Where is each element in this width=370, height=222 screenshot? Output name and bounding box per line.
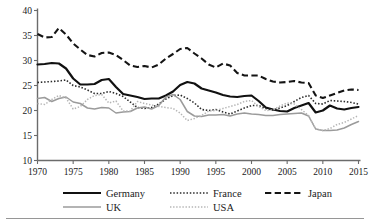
- series-line-usa: [38, 95, 359, 131]
- y-tick-label: 25: [23, 81, 33, 91]
- legend-label-uk: UK: [106, 202, 122, 213]
- x-tick-label: 1990: [171, 167, 190, 177]
- y-tick-label: 20: [23, 106, 33, 116]
- x-tick-label: 1970: [28, 167, 47, 177]
- y-tick-label: 10: [23, 156, 33, 166]
- x-tick-label: 1995: [206, 167, 225, 177]
- series-line-japan: [38, 28, 359, 98]
- y-tick-label: 35: [23, 31, 33, 41]
- series-line-uk: [38, 95, 359, 131]
- legend-label-france: France: [213, 188, 242, 199]
- y-tick-label: 30: [23, 56, 33, 66]
- x-tick-label: 1975: [64, 167, 83, 177]
- series-lines: [38, 28, 359, 131]
- legend-label-japan: Japan: [308, 188, 333, 199]
- y-tick-label: 40: [23, 6, 33, 16]
- chart-legend: GermanyFranceJapanUKUSA: [63, 188, 333, 213]
- x-tick-label: 2015: [349, 167, 368, 177]
- y-axis: 40353025201510: [23, 6, 38, 166]
- x-tick-label: 1985: [135, 167, 154, 177]
- x-tick-label: 2000: [242, 167, 261, 177]
- legend-label-usa: USA: [213, 202, 234, 213]
- line-chart: 40353025201510 1970197519801985199019952…: [0, 0, 370, 222]
- chart-container: 40353025201510 1970197519801985199019952…: [0, 0, 370, 222]
- x-tick-label: 1980: [99, 167, 118, 177]
- x-tick-label: 2005: [278, 167, 297, 177]
- y-tick-label: 15: [23, 131, 33, 141]
- x-tick-label: 2010: [313, 167, 332, 177]
- x-axis: 1970197519801985199019952000200520102015: [28, 161, 368, 177]
- legend-label-germany: Germany: [106, 188, 146, 199]
